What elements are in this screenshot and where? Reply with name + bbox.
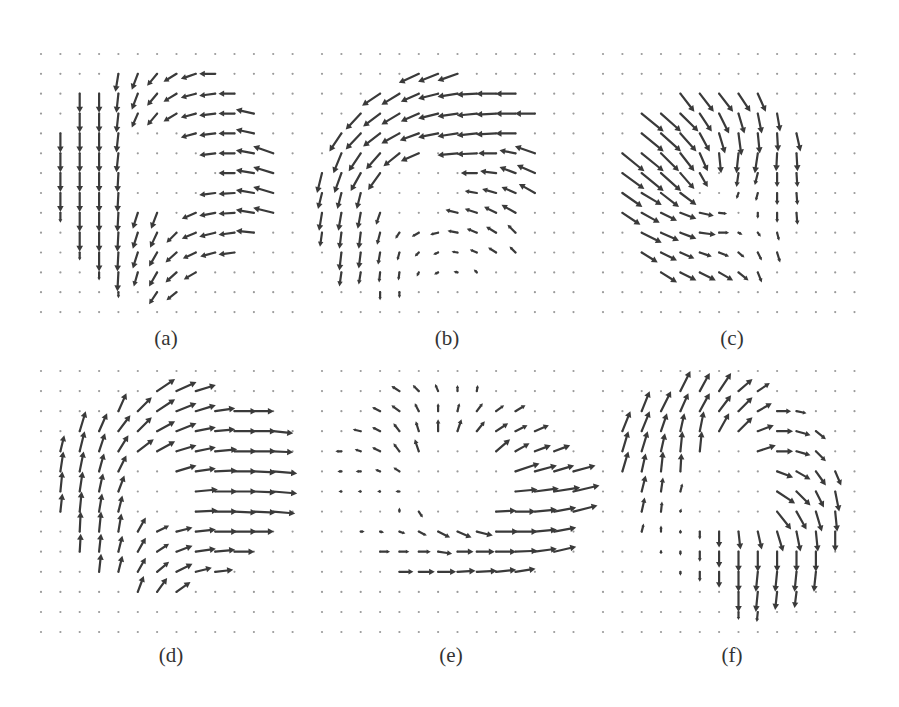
vector-arrow	[719, 212, 727, 215]
grid-dot	[292, 93, 294, 95]
vector-arrow	[338, 490, 341, 493]
vector-arrow	[496, 110, 516, 117]
grid-dot	[214, 631, 216, 633]
grid-dot	[834, 591, 836, 593]
grid-dot	[360, 291, 362, 293]
grid-dot	[495, 291, 497, 293]
grid-dot	[137, 192, 139, 194]
grid-dot	[853, 390, 855, 392]
vector-arrow	[661, 213, 677, 221]
grid-dot	[834, 93, 836, 95]
grid-dot	[476, 53, 478, 55]
grid-dot	[156, 172, 158, 174]
grid-dot	[340, 93, 342, 95]
vector-arrow	[700, 173, 708, 187]
vector-arrow	[138, 538, 146, 552]
grid-dot	[117, 390, 119, 392]
vector-arrow	[496, 405, 504, 411]
grid-dot	[156, 511, 158, 513]
vector-arrow	[641, 524, 644, 532]
vector-arrow	[80, 411, 87, 431]
vector-arrow	[99, 474, 106, 492]
grid-dot	[553, 212, 555, 214]
vector-arrow	[517, 165, 535, 174]
vector-arrow	[253, 166, 273, 173]
vector-arrow	[680, 371, 690, 391]
vector-arrow	[813, 552, 820, 572]
vector-arrow	[680, 413, 686, 431]
figure: (a) (b) (c) (d) (e) (f)	[0, 0, 899, 707]
grid-dot	[553, 611, 555, 613]
vector-arrow	[219, 150, 235, 156]
vector-arrow	[114, 153, 121, 172]
vector-arrow	[114, 94, 121, 113]
grid-dot	[495, 271, 497, 273]
vector-arrow	[661, 413, 668, 431]
vector-arrow	[418, 133, 438, 140]
vector-arrow	[199, 152, 215, 158]
vector-arrow	[642, 153, 664, 171]
vector-arrow	[415, 421, 419, 431]
grid-dot	[379, 591, 381, 593]
grid-dot	[660, 73, 662, 75]
grid-dot	[40, 611, 42, 613]
vector-arrow	[318, 233, 323, 247]
vector-arrow	[496, 567, 516, 574]
vector-arrow	[114, 213, 121, 232]
grid-dot	[214, 291, 216, 293]
grid-dot	[398, 631, 400, 633]
vector-arrow	[516, 508, 536, 515]
vector-arrow	[461, 170, 477, 176]
grid-dot	[137, 172, 139, 174]
grid-dot	[292, 172, 294, 174]
vector-arrow	[118, 435, 128, 451]
vector-arrow	[393, 423, 399, 431]
grid-dot	[853, 531, 855, 533]
vector-arrow	[737, 612, 740, 620]
vector-arrow	[118, 393, 127, 411]
vector-arrow	[477, 548, 495, 555]
vector-arrow	[391, 405, 399, 411]
grid-dot	[660, 631, 662, 633]
grid-dot	[853, 192, 855, 194]
vector-arrow	[196, 566, 212, 572]
vector-arrow	[57, 133, 64, 152]
grid-dot	[602, 430, 604, 432]
grid-dot	[602, 212, 604, 214]
vector-arrow	[164, 94, 177, 102]
vector-arrow	[554, 444, 570, 451]
grid-dot	[553, 93, 555, 95]
grid-dot	[137, 311, 139, 313]
vector-arrow	[478, 150, 496, 157]
vector-arrow	[753, 592, 760, 612]
vector-arrow	[336, 193, 342, 209]
grid-dot	[660, 611, 662, 613]
vector-arrow	[358, 490, 361, 493]
grid-dot	[418, 311, 420, 313]
grid-dot	[572, 251, 574, 253]
grid-dot	[437, 631, 439, 633]
vector-arrow	[219, 251, 235, 257]
grid-dot	[514, 390, 516, 392]
grid-dot	[437, 152, 439, 154]
grid-dot	[834, 132, 836, 134]
grid-dot	[360, 611, 362, 613]
vector-arrow	[166, 253, 177, 263]
vector-arrow	[457, 112, 477, 119]
grid-dot	[834, 212, 836, 214]
grid-dot	[699, 192, 701, 194]
grid-dot	[233, 390, 235, 392]
vector-arrow	[398, 292, 401, 298]
vector-arrow	[486, 227, 496, 233]
grid-dot	[360, 631, 362, 633]
vector-arrow	[97, 534, 104, 552]
grid-dot	[437, 511, 439, 513]
grid-dot	[553, 370, 555, 372]
vector-arrow	[792, 572, 799, 592]
vector-arrow	[419, 512, 423, 518]
grid-dot	[641, 611, 643, 613]
grid-dot	[641, 631, 643, 633]
vector-arrow	[535, 464, 557, 472]
vector-arrow	[377, 490, 380, 493]
vector-arrow	[131, 94, 138, 110]
